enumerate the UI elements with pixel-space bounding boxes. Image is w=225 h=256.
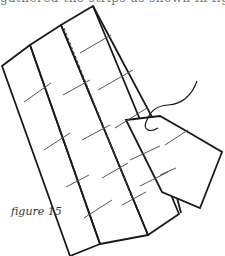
figure-caption: figure 15	[11, 205, 62, 218]
stitch-line	[64, 28, 133, 200]
folded-strip	[126, 116, 222, 208]
strip-1	[2, 45, 100, 256]
